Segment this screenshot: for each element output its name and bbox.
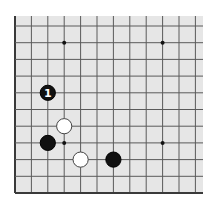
star-point (62, 41, 66, 45)
star-point (161, 41, 165, 45)
go-board: 1 (0, 0, 214, 208)
star-point (161, 141, 165, 145)
stone-disc (73, 152, 88, 167)
black-stone[interactable]: 1 (40, 85, 55, 100)
star-point (62, 141, 66, 145)
stone-disc (40, 135, 55, 150)
stone-disc (106, 152, 121, 167)
stone-disc (57, 119, 72, 134)
black-stone[interactable] (40, 135, 55, 150)
white-stone[interactable] (57, 119, 72, 134)
white-stone[interactable] (73, 152, 88, 167)
black-stone[interactable] (106, 152, 121, 167)
move-number-label: 1 (44, 87, 52, 100)
